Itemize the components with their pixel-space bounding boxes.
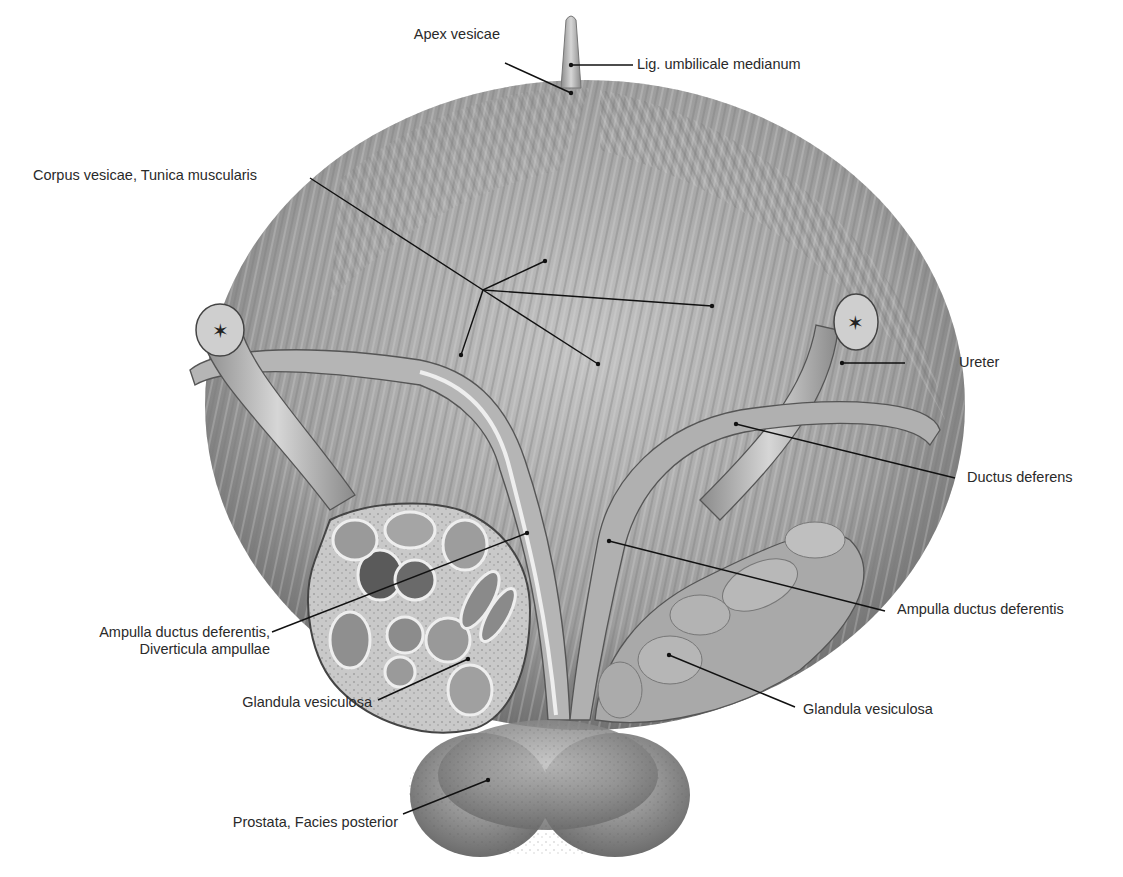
label-ductus-deferens: Ductus deferens xyxy=(967,469,1073,486)
anatomy-illustration: ✶ ✶ xyxy=(0,0,1123,877)
label-ampulla-diverticula-line1: Ampulla ductus deferentis, xyxy=(40,624,270,641)
label-ampulla-diverticula-line2: Diverticula ampullae xyxy=(40,641,270,658)
label-ampulla-ductus-deferentis: Ampulla ductus deferentis xyxy=(897,601,1064,618)
label-prostata: Prostata, Facies posterior xyxy=(150,814,398,831)
median-umbilical-ligament xyxy=(561,16,581,88)
label-apex-vesicae: Apex vesicae xyxy=(340,26,500,43)
label-glandula-vesiculosa-left: Glandula vesiculosa xyxy=(170,694,372,711)
svg-text:✶: ✶ xyxy=(847,311,864,335)
svg-text:✶: ✶ xyxy=(212,319,229,343)
prostate xyxy=(408,720,690,857)
label-lig-umbilicale-medianum: Lig. umbilicale medianum xyxy=(637,56,801,73)
label-ureter: Ureter xyxy=(959,354,999,371)
label-glandula-vesiculosa-right: Glandula vesiculosa xyxy=(803,701,933,718)
label-corpus-vesicae: Corpus vesicae, Tunica muscularis xyxy=(33,167,257,184)
